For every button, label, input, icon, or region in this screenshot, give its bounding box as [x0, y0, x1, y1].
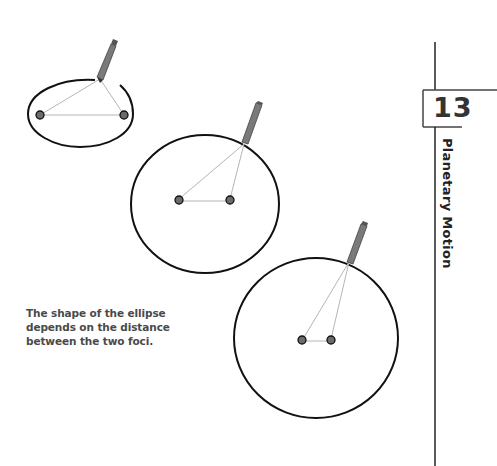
ellipse-small-demo [28, 39, 133, 147]
ellipse-figure [0, 0, 497, 466]
pencil-icon [242, 101, 263, 144]
pencil-icon [347, 221, 368, 264]
figure-caption: The shape of the ellipse depends on the … [26, 306, 186, 348]
pencil-icon [97, 39, 118, 83]
chapter-title: Planetary Motion [440, 138, 455, 269]
chapter-number: 13 [433, 92, 471, 124]
ellipse-medium-demo [131, 101, 279, 273]
